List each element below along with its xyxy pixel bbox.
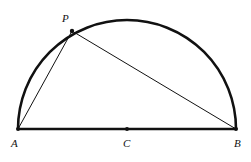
label-a: A: [11, 138, 18, 149]
segment-pb: [72, 31, 236, 129]
semicircle-arc: [18, 20, 236, 129]
point-c: [125, 127, 129, 131]
label-b: B: [234, 138, 241, 149]
label-c: C: [123, 138, 130, 149]
label-p: P: [62, 13, 69, 24]
point-a: [16, 127, 20, 131]
segment-ap: [18, 31, 72, 129]
point-p: [70, 29, 74, 33]
point-b: [234, 127, 238, 131]
